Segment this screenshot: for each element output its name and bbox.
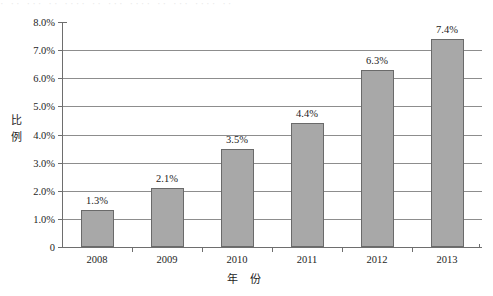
x-axis-tick-label: 2008 [87, 254, 108, 265]
gridline [63, 191, 482, 192]
y-axis-tick-label: 5.0% [33, 101, 55, 112]
bar [151, 188, 184, 247]
gridline [63, 106, 482, 107]
x-axis-tick [272, 247, 273, 252]
gridline [63, 135, 482, 136]
y-axis-tick [58, 135, 63, 136]
bar-value-label: 1.3% [86, 195, 108, 206]
y-axis-tick-label: 0 [50, 242, 55, 253]
y-axis-tick [58, 247, 63, 248]
y-axis-tick-label: 7.0% [33, 45, 55, 56]
gridline [63, 78, 482, 79]
gridline [63, 163, 482, 164]
y-axis-tick [58, 22, 63, 23]
y-axis-tick-label: 3.0% [33, 158, 55, 169]
plot-area: 8.0%7.0%6.0%5.0%4.0%3.0%2.0%1.0%0 1.3%2.… [62, 22, 482, 247]
x-axis-tick-label: 2011 [297, 254, 318, 265]
y-axis-tick-label: 4.0% [33, 130, 55, 141]
x-axis-tick-label: 2010 [227, 254, 248, 265]
bar-value-label: 6.3% [366, 55, 388, 66]
x-axis-tick-label: 2013 [437, 254, 458, 265]
gridline [63, 50, 482, 51]
y-axis-tick [58, 50, 63, 51]
y-axis-tick-label: 1.0% [33, 214, 55, 225]
x-axis-tick [412, 247, 413, 252]
y-axis-tick [58, 163, 63, 164]
y-axis-tick [58, 191, 63, 192]
bar-value-label: 7.4% [436, 24, 458, 35]
bar-value-label: 3.5% [226, 134, 248, 145]
y-axis-tick-label: 8.0% [33, 17, 55, 28]
y-axis-tick-label: 2.0% [33, 186, 55, 197]
bar [291, 123, 324, 247]
bar-value-label: 2.1% [156, 173, 178, 184]
gridline [63, 219, 482, 220]
bar [361, 70, 394, 247]
bar [221, 149, 254, 247]
y-axis-tick [58, 106, 63, 107]
y-axis-title: 比例 [8, 112, 24, 146]
x-axis-tick [132, 247, 133, 252]
y-axis-top-cap [63, 22, 67, 23]
x-axis-tick [202, 247, 203, 252]
bar-chart: 比例 8.0%7.0%6.0%5.0%4.0%3.0%2.0%1.0%0 1.3… [0, 0, 493, 296]
bar-value-label: 4.4% [296, 108, 318, 119]
bar [81, 210, 114, 247]
x-axis-tick-label: 2009 [157, 254, 178, 265]
y-axis-tick [58, 78, 63, 79]
y-axis-tick [58, 219, 63, 220]
x-axis-tick [342, 247, 343, 252]
bar [431, 39, 464, 247]
x-axis-title: 年 份 [0, 270, 493, 286]
x-axis-right-cap [479, 244, 480, 248]
y-axis-tick-label: 6.0% [33, 73, 55, 84]
x-axis-tick-label: 2012 [367, 254, 388, 265]
